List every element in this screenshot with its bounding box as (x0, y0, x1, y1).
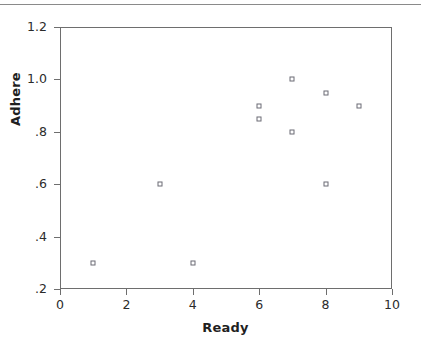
data-point-marker (257, 116, 262, 121)
scatter-plot-area (60, 27, 392, 289)
data-point-marker (290, 77, 295, 82)
x-axis-tick-mark (326, 289, 327, 295)
y-axis-tick-label: .4 (35, 230, 47, 243)
y-axis-tick-mark (54, 27, 60, 28)
x-axis-title-label: Ready (202, 320, 248, 335)
data-point-marker (356, 103, 361, 108)
y-axis-tick-mark (54, 237, 60, 238)
x-axis-title: Ready (0, 320, 421, 335)
x-axis-tick-label: 2 (122, 299, 130, 312)
x-axis-tick-mark (126, 289, 127, 295)
x-axis-tick-label: 8 (322, 299, 330, 312)
x-axis-tick-label: 6 (255, 299, 263, 312)
x-axis-tick-mark (193, 289, 194, 295)
y-axis-tick-mark (54, 132, 60, 133)
data-point-marker (290, 129, 295, 134)
y-axis-tick-label: .6 (35, 178, 47, 191)
y-axis-tick-label: .8 (35, 126, 47, 139)
x-axis-tick-mark (392, 289, 393, 295)
x-axis-tick-label: 10 (384, 299, 400, 312)
data-point-marker (91, 260, 96, 265)
x-axis-tick-mark (60, 289, 61, 295)
x-axis-tick-label: 4 (189, 299, 197, 312)
y-axis-tick-label: 1.2 (27, 21, 47, 34)
data-point-marker (190, 260, 195, 265)
x-axis: 0246810 (0, 289, 421, 319)
x-axis-tick-label: 0 (56, 299, 64, 312)
y-axis-tick-label: 1.0 (27, 73, 47, 86)
data-point-marker (323, 90, 328, 95)
y-axis-tick-mark (54, 184, 60, 185)
data-point-marker (323, 182, 328, 187)
x-axis-tick-mark (259, 289, 260, 295)
top-divider-rule (0, 4, 421, 5)
data-point-marker (157, 182, 162, 187)
y-axis-title-label: Adhere (8, 72, 23, 126)
y-axis-title: Adhere (8, 72, 23, 126)
data-point-marker (257, 103, 262, 108)
y-axis-tick-mark (54, 79, 60, 80)
